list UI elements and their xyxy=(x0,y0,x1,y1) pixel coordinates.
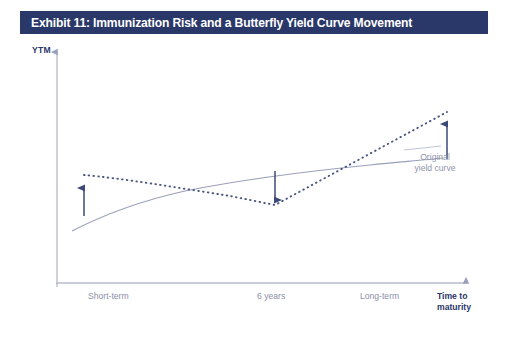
x-tick-long-term: Long-term xyxy=(360,291,399,301)
butterfly-yield-curve xyxy=(84,112,447,205)
annotation-line1: Original xyxy=(398,152,472,163)
x-axis-label-line2: maturity xyxy=(437,302,471,313)
annotation-line2: yield curve xyxy=(398,163,472,174)
x-axis-label: Time to maturity xyxy=(437,291,471,313)
annotation-leader-line xyxy=(404,146,441,150)
x-axis-label-line1: Time to xyxy=(437,291,471,302)
original-yield-curve-annotation: Original yield curve xyxy=(398,152,472,174)
x-tick-six-years: 6 years xyxy=(257,291,285,301)
original-yield-curve xyxy=(72,158,443,231)
exhibit-figure: Exhibit 11: Immunization Risk and a Butt… xyxy=(0,0,508,338)
x-tick-short-term: Short-term xyxy=(88,291,129,301)
